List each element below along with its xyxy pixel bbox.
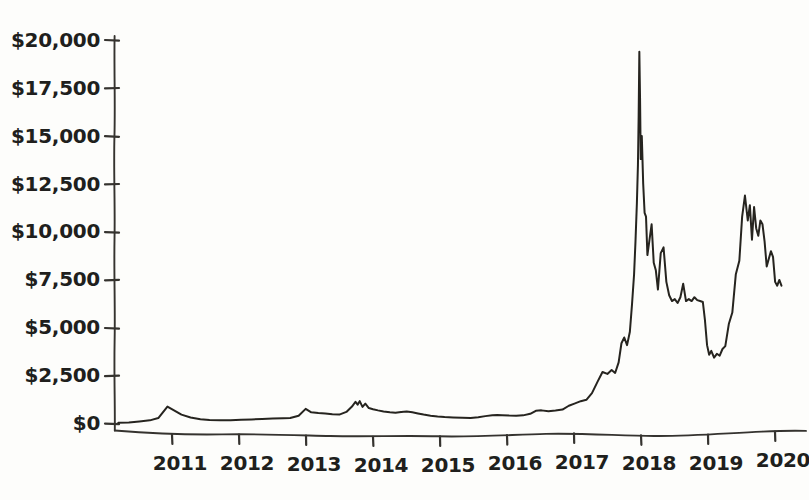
- y-tick: [105, 280, 119, 281]
- y-tick: [105, 328, 119, 329]
- x-axis-label: 2011: [153, 451, 207, 475]
- chart-container: $20,000 $17,500 $15,000 $12,500 $10,000 …: [0, 0, 809, 500]
- x-axis-label: 2018: [622, 451, 676, 475]
- price-line-chart: $20,000 $17,500 $15,000 $12,500 $10,000 …: [0, 0, 809, 500]
- y-axis-label: $2,500: [25, 363, 100, 387]
- y-tick: [105, 136, 119, 137]
- price-series-line: [118, 52, 781, 423]
- y-axis-label: $7,500: [25, 267, 100, 291]
- y-axis-label: $12,500: [11, 172, 100, 196]
- y-axis-ticks: [105, 40, 119, 424]
- x-axis-label: 2020: [756, 448, 809, 472]
- y-tick: [105, 232, 119, 233]
- x-axis-label: 2016: [488, 451, 542, 475]
- y-axis-label: $5,000: [25, 315, 100, 339]
- y-axis-tick-labels: $20,000 $17,500 $15,000 $12,500 $10,000 …: [11, 28, 100, 435]
- y-axis-line: [114, 36, 115, 431]
- y-axis-label: $20,000: [11, 28, 100, 52]
- x-axis-tick-labels: 2011 2012 2013 2014 2015 2016 2017 2018 …: [153, 448, 809, 477]
- x-axis-label: 2019: [689, 451, 743, 475]
- x-axis-label: 2012: [220, 451, 274, 475]
- x-axis-label: 2014: [354, 453, 408, 477]
- x-axis-label: 2013: [287, 452, 341, 476]
- x-axis-line: [115, 431, 806, 437]
- y-tick: [105, 376, 119, 377]
- y-axis-label: $17,500: [11, 76, 100, 100]
- y-axis-label: $15,000: [11, 124, 100, 148]
- y-tick: [105, 40, 119, 41]
- x-axis-label: 2015: [421, 453, 475, 477]
- y-axis-label: $10,000: [11, 219, 100, 243]
- y-axis-label: $0: [73, 411, 100, 435]
- x-axis-label: 2017: [555, 450, 609, 474]
- y-tick: [105, 424, 119, 425]
